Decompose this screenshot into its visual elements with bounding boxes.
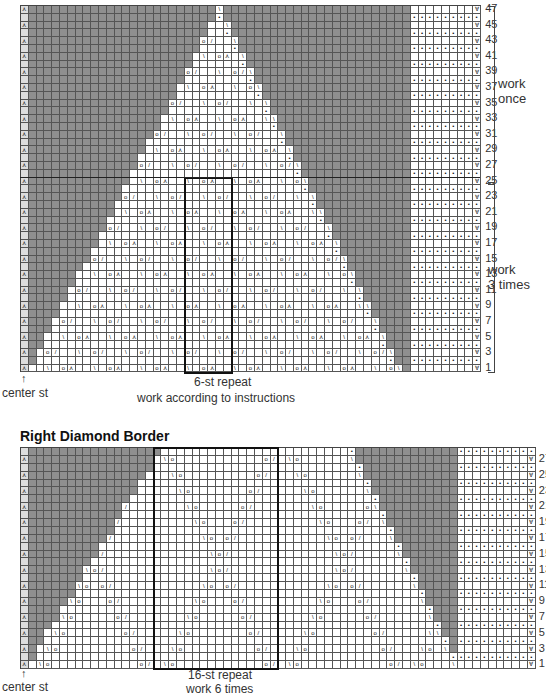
chart-cell: • xyxy=(434,622,442,630)
chart-cell: • xyxy=(473,511,481,519)
chart-cell xyxy=(372,535,380,543)
chart-cell xyxy=(395,495,403,503)
chart-cell xyxy=(107,622,115,630)
chart-cell xyxy=(309,582,317,590)
chart-cell xyxy=(442,519,450,527)
chart-cell xyxy=(239,622,247,630)
chart-cell xyxy=(216,448,224,456)
chart-cell xyxy=(489,535,497,543)
chart-cell: o xyxy=(130,645,138,653)
chart-cell xyxy=(239,487,247,495)
chart-cell xyxy=(83,472,91,480)
chart-cell xyxy=(239,606,247,614)
chart-cell: • xyxy=(473,558,481,566)
chart-cell xyxy=(333,614,341,622)
chart-cell: \ xyxy=(60,614,68,622)
chart-cell xyxy=(520,629,528,637)
chart-cell xyxy=(403,495,411,503)
chart-cell xyxy=(263,582,271,590)
chart-cell xyxy=(60,543,68,551)
chart-cell xyxy=(364,629,372,637)
chart-cell xyxy=(122,519,130,527)
chart-cell xyxy=(224,519,232,527)
chart-cell xyxy=(489,566,497,574)
chart-cell xyxy=(395,448,403,456)
chart-cell xyxy=(122,566,130,574)
chart-cell xyxy=(465,645,473,653)
chart-cell xyxy=(60,535,68,543)
chart-cell xyxy=(325,456,333,464)
chart-cell xyxy=(185,519,193,527)
chart-cell xyxy=(83,590,91,598)
chart-cell xyxy=(317,645,325,653)
chart-cell xyxy=(426,598,434,606)
chart-cell: o xyxy=(317,503,325,511)
chart-cell xyxy=(419,519,427,527)
chart-cell xyxy=(255,519,263,527)
chart-cell xyxy=(255,614,263,622)
row-number: 17 xyxy=(539,531,546,543)
chart-cell xyxy=(271,606,279,614)
chart-cell xyxy=(185,511,193,519)
chart-cell xyxy=(208,622,216,630)
chart-cell xyxy=(37,511,45,519)
chart-cell xyxy=(99,519,107,527)
chart-cell xyxy=(372,464,380,472)
chart-cell xyxy=(99,472,107,480)
chart-cell xyxy=(341,582,349,590)
chart-cell xyxy=(419,543,427,551)
chart-cell xyxy=(91,614,99,622)
chart-cell xyxy=(411,487,419,495)
chart-cell xyxy=(146,472,154,480)
chart-cell xyxy=(442,456,450,464)
chart-cell xyxy=(263,653,271,661)
chart-cell xyxy=(21,511,29,519)
chart-cell xyxy=(395,622,403,630)
chart-cell xyxy=(450,582,458,590)
chart-cell xyxy=(130,637,138,645)
chart-cell xyxy=(146,448,154,456)
chart-cell xyxy=(255,661,263,669)
chart-cell: / xyxy=(107,535,115,543)
chart-cell xyxy=(395,519,403,527)
chart-cell xyxy=(161,582,169,590)
chart-cell xyxy=(271,448,279,456)
chart-cell: • xyxy=(458,653,466,661)
chart-cell xyxy=(247,645,255,653)
chart-cell xyxy=(356,456,364,464)
chart-cell xyxy=(380,598,388,606)
chart-cell xyxy=(434,527,442,535)
chart-cell xyxy=(497,456,505,464)
chart-cell xyxy=(68,590,76,598)
chart-cell: \ xyxy=(185,614,193,622)
chart-cell xyxy=(356,511,364,519)
chart-cell: • xyxy=(481,653,489,661)
chart-cell xyxy=(395,558,403,566)
chart-cell xyxy=(372,511,380,519)
chart-cell xyxy=(512,645,520,653)
chart-cell xyxy=(91,503,99,511)
chart-cell: • xyxy=(489,653,497,661)
chart-cell xyxy=(302,495,310,503)
chart-cell xyxy=(91,464,99,472)
chart-cell xyxy=(232,614,240,622)
chart-cell: • xyxy=(489,622,497,630)
chart-cell xyxy=(216,487,224,495)
chart-cell: ∀ xyxy=(528,551,536,559)
chart-cell xyxy=(278,519,286,527)
chart-cell xyxy=(434,566,442,574)
chart-cell xyxy=(37,582,45,590)
chart-cell: • xyxy=(512,543,520,551)
chart-cell xyxy=(309,637,317,645)
chart-cell xyxy=(239,645,247,653)
chart-cell: • xyxy=(528,622,536,630)
chart-cell xyxy=(465,629,473,637)
chart-cell xyxy=(395,645,403,653)
row-number: 25 xyxy=(539,468,546,480)
chart-cell xyxy=(286,487,294,495)
chart-cell xyxy=(193,448,201,456)
chart-cell xyxy=(520,519,528,527)
chart-cell: • xyxy=(504,653,512,661)
chart-cell xyxy=(138,511,146,519)
chart-cell xyxy=(76,503,84,511)
